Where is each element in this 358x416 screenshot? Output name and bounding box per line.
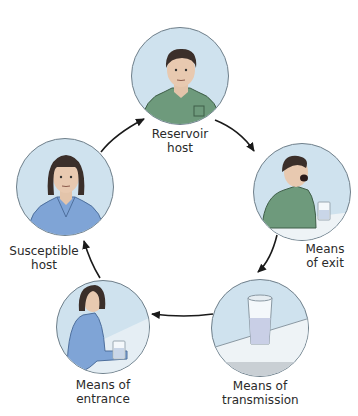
label-reservoir-host: Reservoir host: [150, 127, 210, 155]
node-means-of-exit: [253, 143, 351, 241]
label-means-of-transmission: Means of transmission: [222, 379, 298, 407]
chain-of-infection-diagram: Reservoir host Means of exit Means of: [0, 0, 358, 416]
label-susceptible-host-line2: host: [6, 258, 82, 272]
woman-blue-shirt-illustration: [17, 139, 114, 236]
label-means-of-exit-line1: Means: [300, 242, 350, 256]
man-green-shirt-illustration: [132, 28, 229, 125]
node-means-of-transmission: [211, 279, 309, 377]
arrow-exit-to-transmission: [258, 235, 277, 272]
coughing-man-illustration: [254, 144, 351, 241]
glass-of-water-illustration: [212, 280, 309, 377]
label-means-of-exit-line2: of exit: [300, 256, 350, 270]
label-susceptible-host: Susceptible host: [6, 244, 82, 272]
arrow-transmission-to-entrance: [152, 314, 213, 316]
label-means-of-entrance-line1: Means of: [66, 378, 140, 392]
label-means-of-entrance-line2: entrance: [66, 392, 140, 406]
label-reservoir-host-line2: host: [150, 141, 210, 155]
node-reservoir-host: [131, 27, 229, 125]
arrow-susceptible-to-reservoir: [101, 119, 144, 152]
arrow-entrance-to-susceptible: [84, 241, 100, 278]
arrow-reservoir-to-exit: [215, 120, 254, 151]
node-means-of-entrance: [56, 280, 150, 374]
label-susceptible-host-line1: Susceptible: [6, 244, 82, 258]
label-means-of-transmission-line2: transmission: [222, 393, 298, 407]
label-means-of-exit: Means of exit: [300, 242, 350, 270]
node-susceptible-host: [16, 138, 114, 236]
label-means-of-transmission-line1: Means of: [222, 379, 298, 393]
woman-with-glass-illustration: [57, 281, 150, 374]
label-means-of-entrance: Means of entrance: [66, 378, 140, 406]
label-reservoir-host-line1: Reservoir: [150, 127, 210, 141]
